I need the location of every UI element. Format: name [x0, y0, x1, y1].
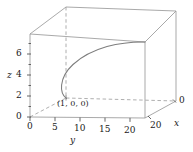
z-tick-label-0: 0: [16, 112, 22, 121]
box-edge-bottom-right: [145, 101, 176, 118]
z-axis-label: z: [7, 71, 12, 80]
curve-path: [61, 42, 145, 99]
x-axis-label: x: [174, 119, 179, 128]
y-axis-label: y: [70, 136, 75, 145]
x-tick-label-20: 20: [150, 121, 161, 130]
y-tick-label-0: 0: [27, 122, 33, 131]
y-tick-label-5: 5: [52, 123, 58, 132]
x-tick-label-0: 0: [179, 96, 185, 105]
point-annotation-label: (1, 0, 0): [57, 100, 89, 108]
y-tick-label-20: 20: [124, 126, 135, 135]
box-hidden-edges: [30, 7, 176, 117]
box-edge-bottom-front: [30, 117, 145, 118]
box-top-face: [30, 7, 176, 42]
y-tick-label-10: 10: [74, 124, 85, 133]
bounding-box: [30, 7, 176, 118]
z-tick-label-6: 6: [16, 49, 22, 58]
z-tick-label-4: 4: [16, 70, 22, 79]
x-axis-ticks: [148, 100, 176, 120]
y-tick-label-15: 15: [99, 125, 110, 134]
x-tick-20: [148, 116, 151, 119]
figure-container: 0 2 4 6 z 0 5 10 15 20 y 20 0 x (1, 0, 0…: [0, 0, 193, 152]
z-tick-label-2: 2: [16, 91, 22, 100]
